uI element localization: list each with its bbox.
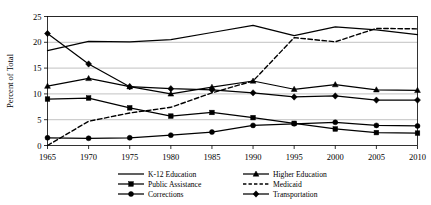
- data-point-corrections-1965: [45, 135, 50, 140]
- data-point-public-assistance-1980: [169, 114, 174, 119]
- legend-label-transportation: Transportation: [273, 190, 318, 199]
- legend-marker-corrections: [129, 192, 134, 197]
- y-axis-label: Percent of Total: [5, 53, 15, 108]
- data-point-corrections-2010: [415, 123, 420, 128]
- x-tick-label-1975: 1975: [121, 152, 138, 162]
- y-tick-label-10: 10: [33, 89, 42, 99]
- data-point-public-assistance-2010: [415, 131, 420, 136]
- line-chart: 0510152025 19651970197519801985199019952…: [0, 0, 431, 205]
- x-tick-label-2005: 2005: [368, 152, 385, 162]
- y-tick-label-5: 5: [37, 115, 41, 125]
- x-tick-label-1990: 1990: [245, 152, 262, 162]
- x-tick-label-1995: 1995: [286, 152, 303, 162]
- data-point-corrections-1980: [168, 133, 173, 138]
- data-point-corrections-2005: [374, 123, 379, 128]
- y-tick-label-15: 15: [33, 63, 42, 73]
- chart-background: [0, 0, 431, 205]
- x-tick-label-1980: 1980: [162, 152, 179, 162]
- x-tick-label-2000: 2000: [327, 152, 344, 162]
- data-point-public-assistance-1970: [86, 96, 91, 101]
- data-point-public-assistance-1965: [45, 97, 50, 102]
- legend-label-corrections: Corrections: [148, 190, 183, 199]
- data-point-corrections-1985: [209, 130, 214, 135]
- y-tick-label-20: 20: [33, 37, 42, 47]
- data-point-corrections-1975: [127, 135, 132, 140]
- x-tick-label-1965: 1965: [39, 152, 56, 162]
- y-axis-title: Percent of Total: [5, 53, 15, 108]
- data-point-corrections-1990: [251, 123, 256, 128]
- x-tick-label-1970: 1970: [80, 152, 97, 162]
- legend-label-medicaid: Medicaid: [273, 180, 302, 189]
- data-point-public-assistance-1990: [251, 115, 256, 120]
- data-point-corrections-1995: [292, 121, 297, 126]
- chart-figure: 0510152025 19651970197519801985199019952…: [0, 0, 431, 205]
- legend-marker-public-assistance: [129, 182, 134, 187]
- data-point-public-assistance-1985: [210, 110, 215, 115]
- y-tick-label-0: 0: [37, 141, 41, 151]
- data-point-corrections-2000: [333, 120, 338, 125]
- y-tick-label-25: 25: [33, 12, 42, 22]
- x-tick-label-2010: 2010: [409, 152, 426, 162]
- data-point-public-assistance-2000: [333, 127, 338, 132]
- data-point-corrections-1970: [86, 136, 91, 141]
- legend-label-public-assistance: Public Assistance: [148, 180, 202, 189]
- legend-label-k-12-education: K-12 Education: [148, 170, 196, 179]
- legend-label-higher-education: Higher Education: [273, 170, 327, 179]
- data-point-public-assistance-1975: [127, 106, 132, 111]
- x-tick-label-1985: 1985: [203, 152, 220, 162]
- data-point-public-assistance-2005: [374, 130, 379, 135]
